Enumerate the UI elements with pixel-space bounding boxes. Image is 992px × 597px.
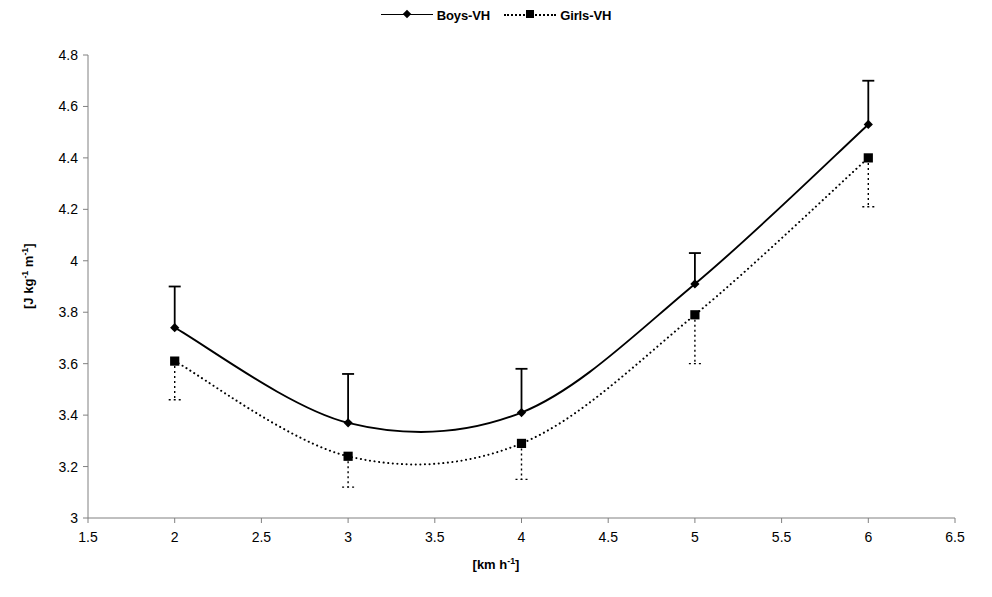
x-axis-tick-label: 3 bbox=[344, 529, 352, 545]
x-axis-tick-label: 2.5 bbox=[252, 529, 272, 545]
y-axis-tick-label: 3.8 bbox=[59, 304, 79, 320]
data-point-marker[interactable] bbox=[170, 323, 179, 332]
y-axis-tick-label: 3.2 bbox=[59, 459, 79, 475]
y-axis-tick-label: 3.4 bbox=[59, 407, 79, 423]
y-axis-tick-label: 4.2 bbox=[59, 201, 79, 217]
data-point-marker[interactable] bbox=[517, 439, 526, 448]
y-axis-title-exponent-2: -1 bbox=[20, 248, 30, 256]
data-line-girls-vh bbox=[175, 158, 869, 465]
y-axis-tick-label: 4.6 bbox=[59, 98, 79, 114]
x-axis-title-exponent: -1 bbox=[507, 556, 515, 566]
data-point-marker[interactable] bbox=[517, 408, 526, 417]
x-axis-tick-label: 3.5 bbox=[425, 529, 445, 545]
x-axis-tick-label: 4.5 bbox=[598, 529, 618, 545]
y-axis-tick-label: 4.4 bbox=[59, 150, 79, 166]
x-axis-tick-label: 5.5 bbox=[772, 529, 792, 545]
y-axis-title: [J kg-1 m-1] bbox=[20, 186, 36, 366]
x-axis-tick-label: 5 bbox=[691, 529, 699, 545]
data-point-marker[interactable] bbox=[170, 356, 179, 365]
y-axis-tick-label: 3 bbox=[70, 510, 78, 526]
y-axis-tick-label: 4.8 bbox=[59, 47, 79, 63]
x-axis-tick-label: 6 bbox=[864, 529, 872, 545]
x-axis-tick-label: 6.5 bbox=[945, 529, 965, 545]
plot-area: 33.23.43.63.844.24.44.64.81.522.533.544.… bbox=[0, 0, 992, 597]
data-point-marker[interactable] bbox=[344, 418, 353, 427]
y-axis-title-tail: ] bbox=[21, 243, 36, 247]
chart-container: Boys-VH Girls-VH 33.23.43.63.844.24.44.6… bbox=[0, 0, 992, 597]
x-axis-tick-label: 1.5 bbox=[78, 529, 98, 545]
y-axis-title-part1: [J kg bbox=[21, 279, 36, 309]
x-axis-title: [km h-1] bbox=[0, 556, 992, 572]
x-axis-tick-label: 4 bbox=[518, 529, 526, 545]
y-axis-title-part2: m bbox=[21, 256, 36, 271]
data-point-marker[interactable] bbox=[864, 153, 873, 162]
x-axis-tick-label: 2 bbox=[171, 529, 179, 545]
x-axis-title-tail: ] bbox=[515, 557, 519, 572]
y-axis-tick-label: 3.6 bbox=[59, 356, 79, 372]
data-point-marker[interactable] bbox=[690, 310, 699, 319]
y-axis-tick-label: 4 bbox=[70, 253, 78, 269]
y-axis-title-exponent-1: -1 bbox=[20, 271, 30, 279]
data-point-marker[interactable] bbox=[344, 452, 353, 461]
x-axis-title-main: [km h bbox=[473, 557, 508, 572]
